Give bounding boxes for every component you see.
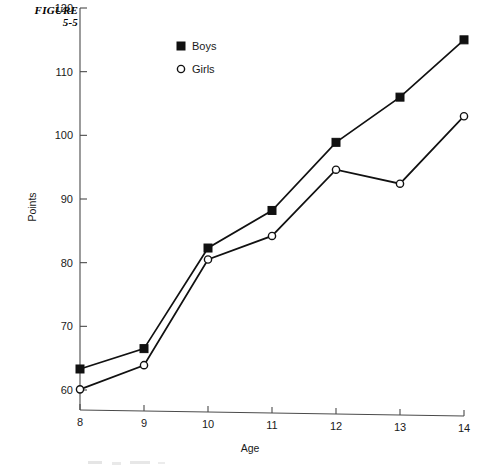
data-point-marker-boys	[460, 36, 468, 44]
legend-filled-square-marker-icon	[177, 42, 185, 50]
y-axis-title: Points	[26, 192, 38, 221]
x-tick-label: 11	[266, 419, 277, 431]
x-tick-label: 13	[394, 421, 406, 433]
series-line-girls	[80, 116, 464, 389]
y-tick-label: 70	[61, 320, 73, 332]
chart-legend: Boys Girls	[177, 40, 217, 75]
y-tick-label: 100	[55, 129, 73, 141]
y-tick-label: 110	[55, 66, 73, 78]
y-axis-ticks: 60708090100110120	[55, 2, 87, 396]
figure-container: FIGURE 5-5 60708090100110120 89101112131…	[0, 0, 484, 469]
y-tick-label: 120	[55, 2, 73, 14]
x-tick-label: 9	[141, 417, 147, 429]
y-tick-label: 90	[61, 193, 73, 205]
data-point-marker-girls	[140, 362, 147, 369]
data-point-marker-boys	[396, 93, 404, 101]
data-point-marker-boys	[76, 365, 84, 373]
data-point-marker-girls	[460, 113, 467, 120]
legend-label-boys: Boys	[192, 40, 217, 52]
data-point-marker-boys	[332, 138, 340, 146]
legend-open-circle-marker-icon	[177, 65, 184, 72]
chart-series-group	[76, 36, 468, 393]
x-axis-ticks: 891011121314	[77, 404, 470, 434]
data-point-marker-boys	[140, 345, 148, 353]
y-tick-label: 80	[61, 257, 73, 269]
line-chart: 60708090100110120 891011121314 Points Ag…	[0, 0, 484, 469]
scan-artifact-smudges	[88, 461, 165, 465]
x-tick-label: 8	[77, 416, 83, 428]
y-tick-label: 60	[61, 384, 73, 396]
data-point-marker-girls	[268, 232, 275, 239]
x-tick-label: 12	[330, 420, 342, 432]
x-tick-label: 14	[458, 422, 470, 434]
data-point-marker-boys	[268, 206, 276, 214]
data-point-marker-boys	[204, 244, 212, 252]
x-axis-title: Age	[241, 442, 260, 454]
data-point-marker-girls	[204, 256, 211, 263]
data-point-marker-girls	[332, 166, 339, 173]
data-point-marker-girls	[76, 386, 83, 393]
data-point-marker-girls	[396, 180, 403, 187]
legend-label-girls: Girls	[192, 63, 215, 75]
series-line-boys	[80, 40, 464, 369]
x-tick-label: 10	[202, 418, 214, 430]
